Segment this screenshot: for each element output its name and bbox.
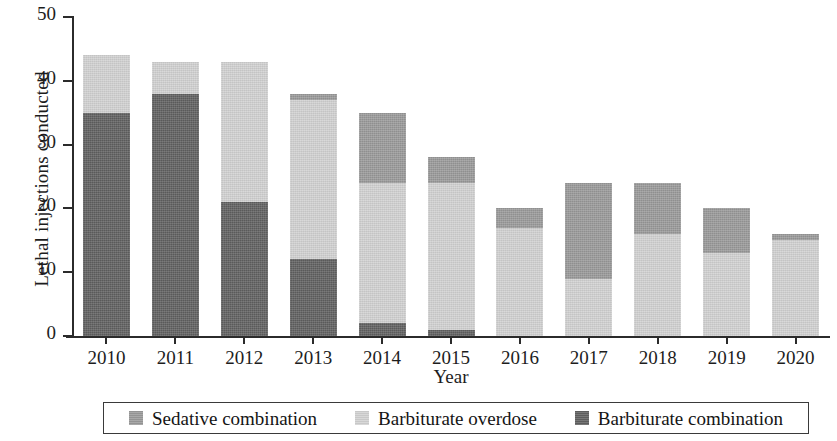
y-axis-tick: 30 (63, 144, 72, 146)
bar-group[interactable] (290, 94, 337, 336)
y-axis-tick-label: 30 (37, 132, 56, 151)
bar-segment[interactable] (428, 183, 475, 330)
x-axis-tick (657, 336, 659, 344)
legend-swatch (129, 411, 143, 425)
y-axis-tick: 20 (63, 207, 72, 209)
x-axis-tick (519, 336, 521, 344)
x-axis-tick (174, 336, 176, 344)
y-axis-tick-label: 20 (37, 195, 56, 214)
bar-segment[interactable] (428, 157, 475, 183)
x-axis-title: Year (72, 366, 830, 388)
bar-segment[interactable] (152, 94, 199, 336)
legend-item[interactable]: Sedative combination (129, 409, 317, 428)
x-axis-tick (312, 336, 314, 344)
y-axis-tick-label: 10 (37, 259, 56, 278)
bar-segment[interactable] (496, 228, 543, 336)
bar-group[interactable] (428, 157, 475, 336)
bar-group[interactable] (634, 183, 681, 336)
legend-label: Barbiturate overdose (378, 409, 537, 428)
bar-segment[interactable] (221, 202, 268, 336)
stacked-bar-chart-figure: Lethal injections conducted 01020304050 … (0, 0, 837, 441)
y-axis-tick-label: 50 (37, 4, 56, 23)
bar-segment[interactable] (152, 62, 199, 94)
bar-segment[interactable] (772, 234, 819, 240)
y-axis-tick: 10 (63, 271, 72, 273)
x-axis-tick (450, 336, 452, 344)
x-axis-tick (795, 336, 797, 344)
y-axis-tick-label: 40 (37, 68, 56, 87)
bar-segment[interactable] (221, 62, 268, 202)
bar-segment[interactable] (290, 259, 337, 336)
x-axis-tick (726, 336, 728, 344)
bar-segment[interactable] (496, 208, 543, 227)
bar-group[interactable] (772, 234, 819, 336)
legend-label: Sedative combination (152, 409, 317, 428)
plot-area: 01020304050 2010201120122013201420152016… (72, 17, 830, 336)
x-axis-tick (105, 336, 107, 344)
bar-segment[interactable] (634, 183, 681, 234)
bar-segment[interactable] (83, 55, 130, 112)
legend-label: Barbiturate combination (598, 409, 783, 428)
y-axis-tick: 50 (63, 16, 72, 18)
x-axis-tick (243, 336, 245, 344)
bar-segment[interactable] (703, 253, 750, 336)
bar-segment[interactable] (290, 94, 337, 100)
bar-segment[interactable] (565, 183, 612, 279)
y-axis-tick: 40 (63, 80, 72, 82)
x-axis-tick (588, 336, 590, 344)
bar-series-container (72, 17, 830, 336)
legend-swatch (575, 411, 589, 425)
bar-segment[interactable] (359, 183, 406, 323)
bar-segment[interactable] (634, 234, 681, 336)
bar-segment[interactable] (290, 100, 337, 260)
bar-segment[interactable] (359, 323, 406, 336)
bar-segment[interactable] (83, 113, 130, 336)
x-axis-tick (381, 336, 383, 344)
bar-group[interactable] (703, 208, 750, 336)
bar-group[interactable] (565, 183, 612, 336)
y-axis-tick-label: 0 (47, 323, 57, 342)
legend-item[interactable]: Barbiturate overdose (355, 409, 537, 428)
bar-group[interactable] (83, 55, 130, 336)
bar-group[interactable] (496, 208, 543, 336)
legend-swatch (355, 411, 369, 425)
x-axis-line (66, 336, 830, 338)
bar-segment[interactable] (703, 208, 750, 253)
bar-group[interactable] (221, 62, 268, 336)
legend-item[interactable]: Barbiturate combination (575, 409, 783, 428)
bar-group[interactable] (359, 113, 406, 336)
bar-segment[interactable] (772, 240, 819, 336)
chart-legend: Sedative combinationBarbiturate overdose… (103, 402, 809, 434)
bar-segment[interactable] (359, 113, 406, 183)
bar-group[interactable] (152, 62, 199, 336)
y-axis-tick: 0 (63, 335, 72, 337)
bar-segment[interactable] (565, 279, 612, 336)
